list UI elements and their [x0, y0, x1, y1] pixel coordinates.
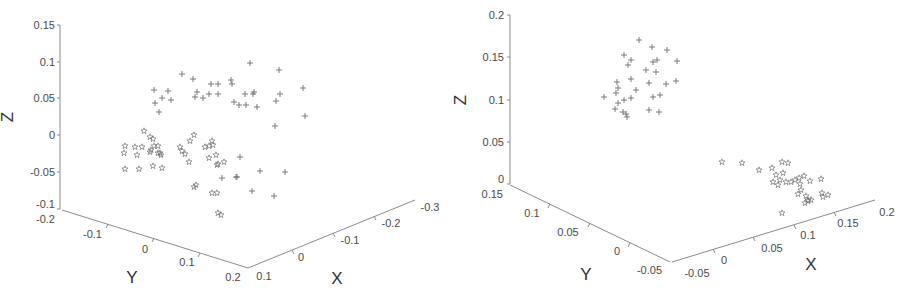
plus-marker: [156, 109, 162, 115]
plus-marker: [628, 95, 634, 101]
plus-marker: [206, 91, 212, 97]
plus-marker: [628, 57, 634, 63]
x-tick-label: -0.1: [341, 234, 360, 246]
star-marker: [797, 181, 803, 187]
x-tick: [794, 225, 796, 229]
star-marker: [773, 172, 779, 178]
star-marker: [136, 166, 142, 172]
z-tick-label: 0: [49, 129, 55, 141]
y-tick: [628, 243, 630, 247]
plus-marker: [601, 94, 607, 100]
y-tick-label: 0.05: [557, 226, 578, 238]
y-axis-title: Y: [126, 268, 137, 287]
x-tick-label: 0: [721, 254, 727, 266]
star-marker: [187, 138, 193, 144]
plus-marker: [614, 79, 620, 85]
plus-marker: [151, 87, 157, 93]
star-marker: [209, 190, 215, 196]
plus-marker: [272, 123, 278, 129]
plus-marker: [302, 113, 308, 119]
y-tick-label: -0.2: [36, 213, 55, 225]
z-tick-label: 0: [498, 173, 504, 185]
star-marker: [206, 155, 212, 161]
plus-marker: [236, 102, 242, 108]
plus-marker: [271, 193, 277, 199]
z-tick-label: 0.1: [40, 56, 55, 68]
plus-marker: [636, 37, 642, 43]
plus-marker: [643, 67, 649, 73]
star-marker: [779, 210, 785, 216]
plus-marker: [159, 95, 165, 101]
y-tick-label: 0: [614, 245, 620, 257]
plus-marker: [249, 188, 255, 194]
plus-marker: [674, 58, 680, 64]
plot-right: 0.2 0.15 0.1 0.05 0 Z 0.15 0.1 0.05 0 -0…: [451, 9, 895, 284]
star-marker: [122, 143, 128, 149]
y-tick: [548, 204, 550, 208]
figure: 0.15 0.1 0.05 0 -0.05 -0.1 Z -0.2 -0.1 0…: [0, 0, 902, 300]
star-marker: [798, 187, 804, 193]
plus-marker: [231, 99, 237, 105]
x-axis-title: X: [805, 255, 816, 274]
z-axis-title: Z: [451, 95, 470, 105]
star-marker: [150, 136, 156, 142]
z-tick-label: -0.1: [36, 198, 55, 210]
star-marker: [780, 170, 786, 176]
star-marker: [783, 179, 789, 185]
y-tick: [588, 223, 590, 227]
z-tick-label: 0.05: [483, 136, 504, 148]
plus-marker: [165, 88, 171, 94]
plus-marker: [179, 71, 185, 77]
star-marker: [785, 160, 791, 166]
z-tick-label: 0.05: [34, 92, 55, 104]
plus-marker: [615, 100, 621, 106]
plus-marker: [247, 60, 253, 66]
star-marker: [213, 152, 219, 158]
y-tick-label: 0.2: [225, 271, 240, 283]
x-tick-label: 0.1: [256, 270, 271, 282]
plus-marker: [612, 106, 618, 112]
z-tick-label: 0.15: [34, 19, 55, 31]
x-axis-title: X: [331, 269, 342, 288]
x-tick-label: 0.05: [761, 242, 782, 254]
x-axis-line: [248, 200, 415, 268]
star-marker: [139, 144, 145, 150]
plus-marker: [152, 100, 158, 106]
star-marker: [802, 200, 808, 206]
y-tick-label: 0.1: [524, 207, 539, 219]
star-marker: [159, 165, 165, 171]
plus-marker: [254, 104, 260, 110]
x-tick-label: -0.2: [382, 217, 401, 229]
plus-marker: [621, 52, 627, 58]
plus-marker: [621, 97, 627, 103]
scatter-points-left: [121, 60, 308, 218]
star-marker: [221, 159, 227, 165]
x-tick: [292, 250, 294, 254]
star-marker: [825, 192, 831, 198]
star-marker: [719, 159, 725, 165]
plus-marker: [646, 107, 652, 113]
plus-marker: [257, 168, 263, 174]
star-marker: [775, 182, 781, 188]
star-marker: [122, 166, 128, 172]
z-tick-label: 0.15: [483, 51, 504, 63]
plus-marker: [229, 81, 235, 87]
star-marker: [182, 151, 188, 157]
y-tick-label: -0.1: [83, 228, 102, 240]
plus-marker: [664, 47, 670, 53]
star-marker: [819, 190, 825, 196]
plot-left: 0.15 0.1 0.05 0 -0.05 -0.1 Z -0.2 -0.1 0…: [0, 19, 439, 288]
z-tick-label: 0.1: [489, 94, 504, 106]
plus-marker: [625, 62, 631, 68]
plus-marker: [653, 69, 659, 75]
x-tick-label: 0.2: [879, 206, 894, 218]
star-marker: [756, 167, 762, 173]
plus-marker: [233, 174, 239, 180]
star-marker: [121, 150, 127, 156]
star-marker: [218, 212, 224, 218]
plus-marker: [656, 109, 662, 115]
y-tick-label: -0.05: [637, 264, 662, 276]
star-marker: [807, 178, 813, 184]
star-marker: [214, 190, 220, 196]
star-marker: [191, 132, 197, 138]
